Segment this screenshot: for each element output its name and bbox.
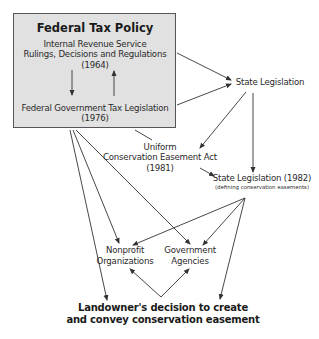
- federal-legislation-label: Federal Government Tax Legislation: [21, 104, 168, 113]
- nonprofit-line2: Organizations: [97, 257, 154, 266]
- diagram-canvas: Federal Tax Policy Internal Revenue Serv…: [0, 0, 319, 339]
- government-line2: Agencies: [171, 257, 208, 266]
- landowner-line2: and convey conservation easement: [66, 315, 259, 325]
- uniform-act-year: (1981): [146, 164, 173, 173]
- nonprofit-line1: Nonprofit: [106, 246, 144, 255]
- uniform-act-line1: Uniform: [144, 143, 177, 152]
- irs-rulings-label: Rulings, Decisions and Regulations: [24, 50, 167, 59]
- federal-tax-policy-title: Federal Tax Policy: [37, 23, 154, 35]
- landowner-line1: Landowner's decision to create: [78, 303, 248, 313]
- state-legislation-1982-node: State Legislation (1982): [213, 174, 311, 183]
- government-line1: Government: [164, 246, 216, 255]
- uniform-act-line2: Conservation Easement Act: [103, 153, 217, 162]
- federal-legislation-year: (1976): [81, 114, 108, 123]
- irs-year: (1964): [81, 61, 108, 70]
- state-legislation-node: State Legislation: [236, 78, 304, 87]
- state-legislation-1982-subtitle: (defining conservation easements): [215, 185, 309, 190]
- irs-label: Internal Revenue Service: [44, 40, 147, 49]
